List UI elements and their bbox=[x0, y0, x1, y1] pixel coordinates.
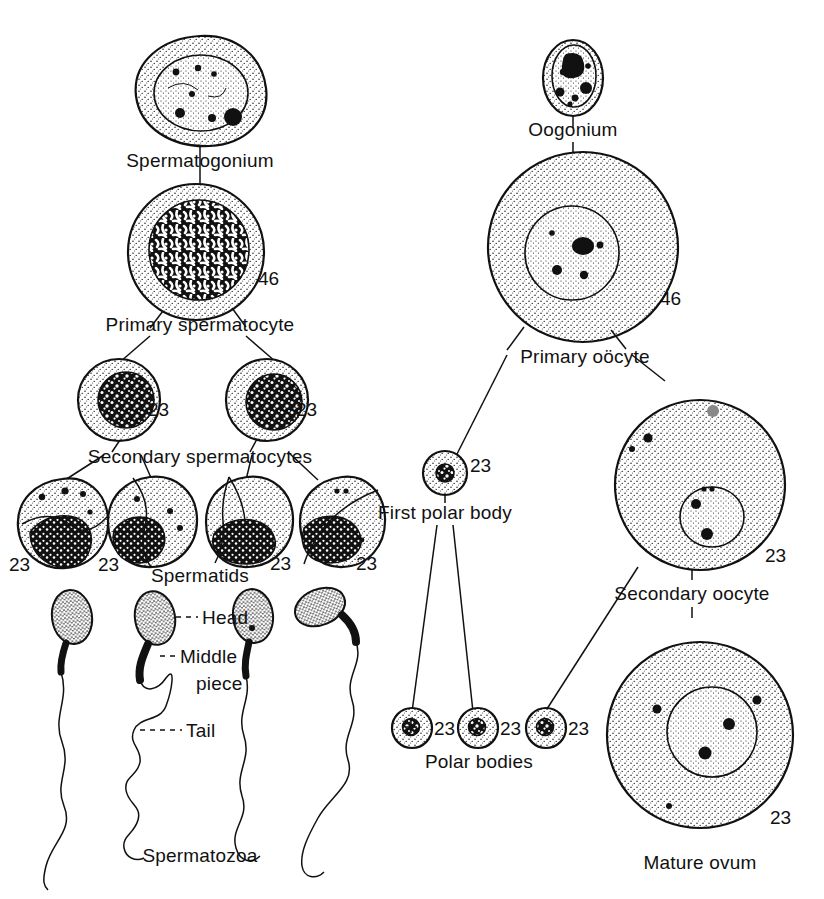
label-secondary-spermatocytes: Secondary spermatocytes bbox=[88, 446, 312, 467]
label-head: Head bbox=[202, 607, 248, 628]
count-primary-spermatocyte: 46 bbox=[258, 268, 279, 289]
cell-polar-body-1 bbox=[392, 708, 432, 748]
count-spermatid-4: 23 bbox=[356, 553, 377, 574]
label-middle: Middle bbox=[180, 646, 237, 667]
count-secondary-oocyte: 23 bbox=[765, 545, 786, 566]
label-piece: piece bbox=[196, 673, 242, 694]
count-mature-ovum: 23 bbox=[770, 807, 791, 828]
cell-polar-body-3 bbox=[526, 708, 566, 748]
meiosis-diagram: Spermatogonium 46 Primary spermatocyte 2… bbox=[0, 0, 824, 899]
label-spermatids: Spermatids bbox=[151, 565, 249, 586]
cell-primary-oocyte bbox=[488, 152, 678, 342]
label-mature-ovum: Mature ovum bbox=[643, 852, 756, 873]
count-polar-body-2: 23 bbox=[500, 718, 521, 739]
label-secondary-oocyte: Secondary oocyte bbox=[614, 583, 769, 604]
cell-spermatid-2 bbox=[108, 477, 197, 567]
label-primary-spermatocyte: Primary spermatocyte bbox=[106, 314, 295, 335]
label-first-polar-body: First polar body bbox=[378, 502, 512, 523]
cell-primary-spermatocyte bbox=[128, 184, 264, 320]
label-polar-bodies: Polar bodies bbox=[425, 751, 533, 772]
count-spermatid-1: 23 bbox=[9, 554, 30, 575]
count-first-polar-body: 23 bbox=[470, 455, 491, 476]
count-polar-body-1: 23 bbox=[434, 718, 455, 739]
cell-spermatogonium bbox=[136, 36, 267, 146]
cell-spermatid-1 bbox=[18, 478, 108, 568]
cell-first-polar-body bbox=[423, 451, 467, 495]
count-primary-oocyte: 46 bbox=[660, 288, 681, 309]
count-polar-body-3: 23 bbox=[568, 718, 589, 739]
cell-secondary-oocyte bbox=[615, 400, 785, 570]
cell-oogonium bbox=[543, 40, 603, 116]
label-spermatogonium: Spermatogonium bbox=[126, 150, 274, 171]
figure-canvas: Spermatogonium 46 Primary spermatocyte 2… bbox=[0, 0, 824, 899]
count-spermatid-3: 23 bbox=[270, 553, 291, 574]
label-spermatozoa: Spermatozoa bbox=[142, 845, 257, 866]
count-secondary-spermatocyte-2: 23 bbox=[296, 399, 317, 420]
cell-mature-ovum bbox=[607, 642, 793, 828]
label-primary-oocyte: Primary oöcyte bbox=[520, 346, 650, 367]
label-oogonium: Oogonium bbox=[528, 119, 617, 140]
label-tail: Tail bbox=[186, 720, 215, 741]
count-spermatid-2: 23 bbox=[98, 554, 119, 575]
count-secondary-spermatocyte-1: 23 bbox=[148, 399, 169, 420]
cell-polar-body-2 bbox=[458, 708, 498, 748]
